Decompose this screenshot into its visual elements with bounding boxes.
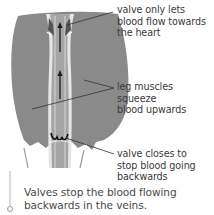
label-line: blood upwards — [117, 104, 214, 116]
label-bottom-valve: valve closes to stop blood going backwar… — [117, 148, 214, 183]
figure-caption: Valves stop the blood flowing backwards … — [24, 186, 214, 212]
caption-line: backwards in the veins. — [24, 199, 214, 212]
label-line: valve only lets — [117, 4, 214, 16]
label-muscles: leg muscles squeeze blood upwards — [117, 81, 214, 116]
label-line: the heart — [117, 27, 214, 39]
caption-rule-end-icon — [8, 207, 13, 212]
leg-lower-edge — [24, 148, 28, 168]
label-line: backwards — [117, 171, 214, 183]
label-line: stop blood going — [117, 160, 214, 172]
leg-lower-edge — [80, 150, 84, 168]
label-line: valve closes to — [117, 148, 214, 160]
caption-line: Valves stop the blood flowing — [24, 186, 214, 199]
label-top-valve: valve only lets blood flow towards the h… — [117, 4, 214, 39]
label-line: blood flow towards — [117, 16, 214, 28]
label-line: leg muscles squeeze — [117, 81, 214, 104]
